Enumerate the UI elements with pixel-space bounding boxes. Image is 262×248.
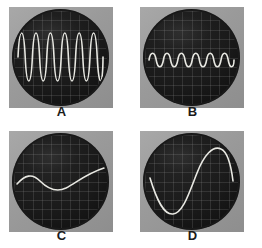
scope-bezel-b xyxy=(143,9,240,106)
scope-frame-c xyxy=(9,131,113,232)
scope-screen-c xyxy=(14,135,107,228)
oscilloscope-panel-b: B xyxy=(131,0,262,124)
scope-frame-d xyxy=(140,131,244,232)
oscilloscope-figure: A B xyxy=(0,0,262,248)
scope-screen-a xyxy=(14,11,107,104)
oscilloscope-panel-d: D xyxy=(131,124,262,248)
scope-bezel-a xyxy=(12,9,109,106)
waveform-trace-a xyxy=(14,11,107,104)
scope-frame-b xyxy=(140,7,244,108)
panel-label-a: A xyxy=(0,104,123,119)
scope-bezel-c xyxy=(12,133,109,230)
waveform-trace-b xyxy=(145,11,238,104)
panel-label-b: B xyxy=(131,104,254,119)
scope-screen-b xyxy=(145,11,238,104)
scope-bezel-d xyxy=(143,133,240,230)
waveform-trace-c xyxy=(14,135,107,228)
scope-screen-d xyxy=(145,135,238,228)
oscilloscope-panel-c: C xyxy=(0,124,131,248)
panel-label-d: D xyxy=(131,228,254,243)
waveform-trace-d xyxy=(145,135,238,228)
panel-label-c: C xyxy=(0,228,123,243)
oscilloscope-panel-a: A xyxy=(0,0,131,124)
scope-frame-a xyxy=(9,7,113,108)
